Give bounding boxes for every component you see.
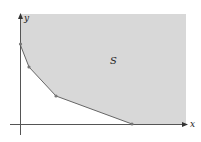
region-label: S bbox=[110, 55, 117, 66]
vertex-point bbox=[130, 122, 133, 125]
vertex-point bbox=[54, 94, 57, 97]
feasible-region-diagram: S x y bbox=[0, 0, 201, 142]
region-s bbox=[20, 14, 186, 124]
vertex-point bbox=[27, 65, 30, 68]
vertex-point bbox=[19, 42, 22, 45]
y-axis-label: y bbox=[23, 13, 30, 23]
x-axis-label: x bbox=[190, 119, 195, 129]
